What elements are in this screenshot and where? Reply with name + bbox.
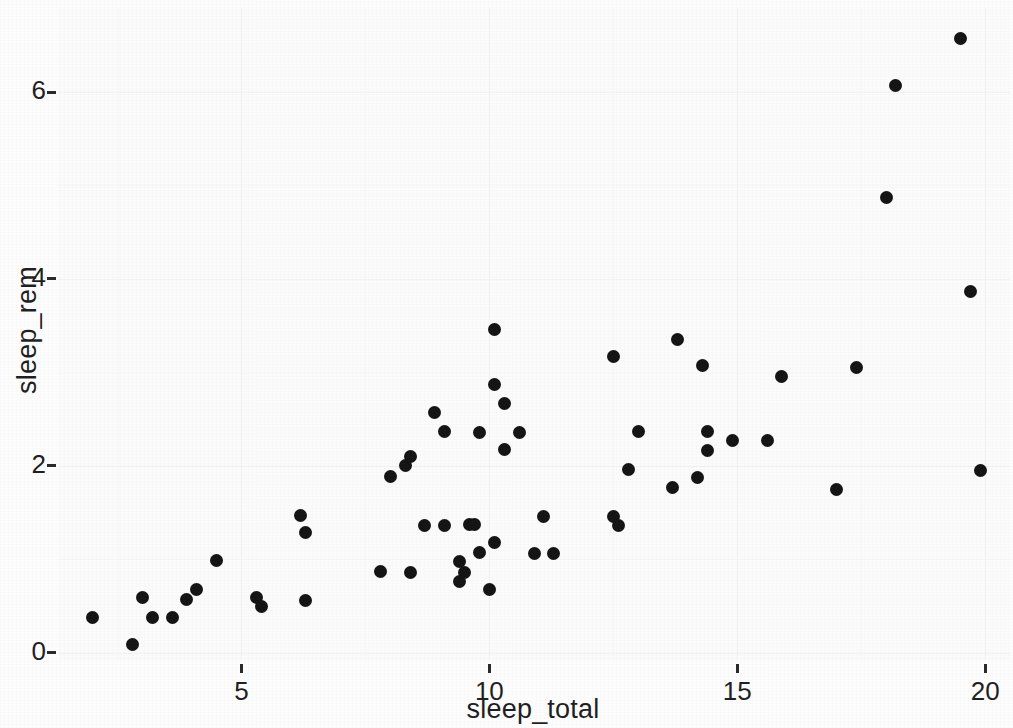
- gridline-x: [985, 8, 986, 660]
- gridline-y: [58, 92, 1010, 93]
- y-tick-mark: [47, 464, 56, 467]
- x-tick-mark: [736, 664, 739, 673]
- data-point: [404, 566, 417, 579]
- y-tick-mark: [47, 651, 56, 654]
- data-point: [438, 425, 451, 438]
- data-point: [954, 32, 967, 45]
- data-point: [190, 583, 203, 596]
- data-point: [294, 509, 307, 522]
- data-point: [498, 397, 511, 410]
- data-point: [404, 450, 417, 463]
- data-point: [830, 483, 843, 496]
- gridline-x-minor: [365, 8, 366, 660]
- gridline-x-minor: [613, 8, 614, 660]
- data-point: [136, 591, 149, 604]
- data-point: [622, 463, 635, 476]
- x-tick-mark: [240, 664, 243, 673]
- x-axis-title: sleep_total: [58, 694, 1008, 725]
- data-point: [418, 519, 431, 532]
- data-point: [880, 191, 893, 204]
- gridline-y: [58, 279, 1010, 280]
- data-point: [374, 565, 387, 578]
- data-point: [488, 323, 501, 336]
- data-point: [528, 547, 541, 560]
- data-point: [146, 611, 159, 624]
- data-point: [850, 361, 863, 374]
- data-point: [384, 470, 397, 483]
- gridline-x: [241, 8, 242, 660]
- data-point: [473, 426, 486, 439]
- gridline-x-minor: [118, 8, 119, 660]
- gridline-y-minor: [58, 372, 1010, 373]
- y-axis-title: sleep_rem: [10, 0, 44, 660]
- data-point: [166, 611, 179, 624]
- data-point: [889, 79, 902, 92]
- data-point: [607, 350, 620, 363]
- data-point: [974, 464, 987, 477]
- data-point: [210, 554, 223, 567]
- data-point: [428, 406, 441, 419]
- data-point: [547, 547, 560, 560]
- data-point: [488, 536, 501, 549]
- data-point: [498, 443, 511, 456]
- data-point: [726, 434, 739, 447]
- gridline-x-minor: [861, 8, 862, 660]
- data-point: [964, 285, 977, 298]
- data-point: [537, 510, 550, 523]
- data-point: [632, 425, 645, 438]
- y-tick-mark: [47, 277, 56, 280]
- gridline-y: [58, 653, 1010, 654]
- data-point: [86, 611, 99, 624]
- data-point: [775, 370, 788, 383]
- data-point: [255, 600, 268, 613]
- data-point: [701, 444, 714, 457]
- gridline-y: [58, 466, 1010, 467]
- data-point: [666, 481, 679, 494]
- y-tick-mark: [47, 91, 56, 94]
- data-point: [473, 546, 486, 559]
- data-point: [483, 583, 496, 596]
- data-point: [126, 638, 139, 651]
- gridline-y-minor: [58, 185, 1010, 186]
- gridline-x: [737, 8, 738, 660]
- data-point: [696, 359, 709, 372]
- x-tick-mark: [488, 664, 491, 673]
- data-point: [299, 594, 312, 607]
- data-point: [458, 566, 471, 579]
- data-point: [488, 378, 501, 391]
- data-point: [761, 434, 774, 447]
- data-point: [513, 426, 526, 439]
- x-tick-mark: [984, 664, 987, 673]
- data-point: [691, 471, 704, 484]
- scatter-plot-figure: 0246 5101520 sleep_rem sleep_total: [0, 0, 1013, 728]
- data-point: [299, 526, 312, 539]
- data-point: [468, 518, 481, 531]
- data-point: [671, 333, 684, 346]
- data-point: [438, 519, 451, 532]
- data-point: [612, 519, 625, 532]
- data-point: [180, 593, 193, 606]
- plot-panel: [58, 8, 1010, 660]
- data-point: [701, 425, 714, 438]
